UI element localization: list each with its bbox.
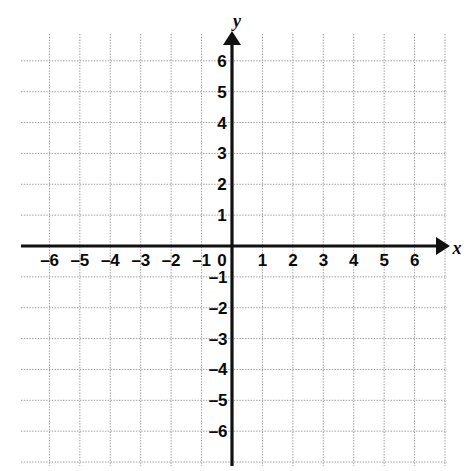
- x-tick-label: –6: [40, 252, 59, 269]
- x-tick-label: –2: [162, 252, 181, 269]
- y-tick-label: –2: [209, 299, 228, 316]
- x-tick-label: 2: [288, 252, 297, 269]
- x-axis-label: x: [453, 239, 462, 257]
- x-tick-label: 3: [319, 252, 328, 269]
- y-tick-label: –6: [209, 423, 228, 440]
- x-tick-label: 1: [258, 252, 267, 269]
- x-tick-label: –4: [101, 252, 120, 269]
- coordinate-grid-svg: [0, 0, 468, 471]
- x-tick-label: –5: [71, 252, 90, 269]
- x-axis-arrowhead: [436, 237, 450, 255]
- y-tick-label: 6: [217, 52, 226, 69]
- y-tick-label: 4: [217, 114, 226, 131]
- x-tick-label: –3: [131, 252, 150, 269]
- origin-label: 0: [217, 252, 226, 269]
- y-tick-label: –4: [209, 361, 228, 378]
- y-tick-label: –5: [209, 392, 228, 409]
- x-tick-label: –1: [192, 252, 211, 269]
- x-tick-label: 5: [380, 252, 389, 269]
- y-tick-label: 3: [217, 145, 226, 162]
- x-tick-label: 6: [410, 252, 419, 269]
- y-axis-arrowhead: [223, 31, 241, 45]
- y-tick-label: 2: [217, 176, 226, 193]
- y-tick-label: –3: [209, 330, 228, 347]
- y-tick-label: –1: [209, 268, 228, 285]
- y-axis-label: y: [233, 12, 241, 30]
- y-tick-label: 5: [217, 83, 226, 100]
- y-tick-label: 1: [217, 207, 226, 224]
- coordinate-plane-figure: –6–5–4–3–2–10123456654321–1–2–3–4–5–6 x …: [0, 0, 468, 471]
- x-tick-label: 4: [349, 252, 358, 269]
